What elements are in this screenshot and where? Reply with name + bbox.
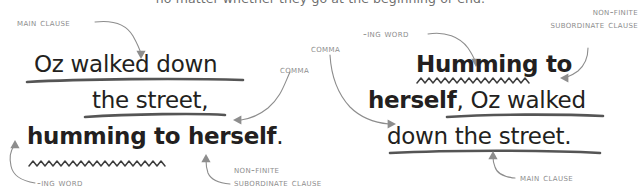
left-line-3-plain: . — [276, 123, 283, 149]
left-line-2: the street, — [92, 87, 208, 113]
label-right-main-clause: main clause — [520, 171, 573, 183]
diagram-canvas: no matter whether they go at the beginni… — [0, 0, 641, 194]
label-right-ing-word: -ing word — [363, 27, 409, 39]
right-line-2-plain: , Oz walked — [456, 87, 585, 113]
right-line-3: down the street. — [387, 123, 571, 149]
underline-right-line-3 — [390, 151, 600, 153]
label-left-non-finite-line2: subordinate clause — [234, 176, 322, 189]
label-right-non-finite-line2: subordinate clause — [468, 18, 638, 31]
label-left-non-finite-line1: non-finite — [234, 163, 322, 176]
label-left-comma: comma — [280, 63, 309, 75]
right-line-1: Humming to — [416, 51, 572, 77]
arrow-right-main-clause — [493, 157, 515, 178]
squiggle-right-ing-word — [417, 78, 529, 83]
label-right-non-finite-line1: non-finite — [468, 5, 638, 18]
label-right-non-finite: non-finite subordinate clause — [468, 5, 638, 31]
underline-left-line-1 — [27, 79, 243, 82]
left-line-3: humming to herself. — [27, 123, 283, 149]
squiggle-left-ing-word — [29, 161, 165, 166]
label-left-main-clause: main clause — [17, 16, 70, 28]
arrow-left-main-clause — [95, 22, 141, 54]
right-line-2-bold: herself — [368, 87, 456, 113]
left-line-1: Oz walked down — [34, 51, 217, 77]
left-line-3-bold: humming to herself — [27, 123, 276, 149]
label-left-non-finite: non-finite subordinate clause — [234, 163, 322, 189]
right-line-2: herself, Oz walked — [368, 87, 586, 113]
label-left-ing-word: -ing word — [37, 176, 83, 188]
label-right-comma: comma — [311, 42, 340, 54]
underline-left-line-2 — [85, 114, 225, 117]
arrow-left-ing-word — [10, 146, 35, 183]
underline-right-line-2 — [447, 115, 603, 117]
arrow-left-comma — [241, 72, 290, 120]
arrow-left-non-finite — [206, 160, 230, 184]
